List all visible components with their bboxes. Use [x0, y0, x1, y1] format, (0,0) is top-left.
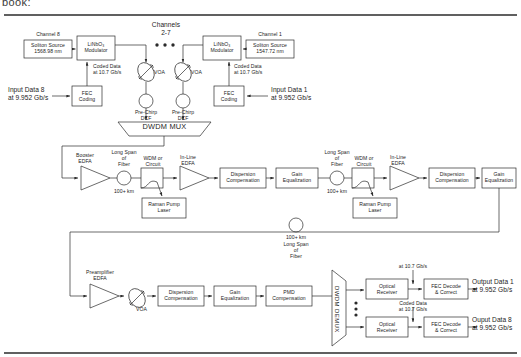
channel8-soliton-source: Soliton Source 1568.98 nm [24, 42, 72, 54]
rx-channel1-output-data: Output Data 1 at 9.952 Gb/s [472, 278, 521, 294]
span2-dispersion-compensation: Dispersion Compensation [429, 171, 475, 183]
channel8-coded-data: Coded Data at 10.7 Gb/s [93, 63, 137, 75]
diagram-canvas: book: [0, 0, 521, 357]
channel8-modulator: LiNbO₃ Modulator [77, 41, 115, 53]
span1-dispersion-compensation: Dispersion Compensation [220, 171, 266, 183]
channel8-fec-coding: FEC Coding [72, 90, 102, 102]
receiver-voa-label: VOA [136, 306, 150, 312]
channel1-coded-data: Coded Data at 10.7 Gb/s [234, 63, 278, 75]
channel1-fec-coding: FEC Coding [214, 90, 244, 102]
channel1-voa-label: VOA [191, 69, 205, 75]
span3-fiber-length: 100+ km [277, 234, 315, 240]
channel1-input-data: Input Data 1 at 9.952 Gb/s [271, 86, 337, 102]
dwdm-mux-label: DWDM MUX [129, 124, 200, 130]
middle-channels-label: Channels 2-7 [140, 21, 192, 37]
span2-gain-equalization: Gain Equalization [482, 171, 516, 183]
span1-fiber-length: 100+ km [105, 188, 143, 194]
rx-channel1-coded-data: at 10.7 Gb/s [388, 263, 438, 269]
channel1-prechirp-dcf: Pre-Chirp DCF [161, 109, 205, 121]
channel1-modulator: LiNbO₃ Modulator [203, 41, 241, 53]
channel8-voa-label: VOA [154, 69, 168, 75]
receiver-preamplifier-edfa: Preamplifier EDFA [77, 269, 123, 281]
span2-fiber-length: 100+ km [318, 188, 356, 194]
channel1-label: Channel 1 [246, 31, 294, 37]
span1-wdm-circuit: WDM or Circuit [138, 155, 168, 167]
span1-inline-edfa: In-Line EDFA [172, 154, 204, 166]
receiver-pmd-compensation: PMD Compensation [266, 289, 312, 301]
channel8-input-data: Input Data 8 at 9.952 Gb/s [8, 86, 70, 102]
rx-channel1-optical-receiver: Optical Receiver [366, 283, 408, 295]
span2-inline-edfa: In-Line EDFA [382, 154, 414, 166]
receiver-dispersion-compensation: Dispersion Compensation [158, 289, 204, 301]
channel8-label: Channel 8 [24, 31, 72, 37]
rx-channel8-fec-decode: FEC Decode & Correct [424, 321, 468, 333]
channel1-soliton-source: Soliton Source 1547.72 nm [246, 42, 294, 54]
dwdm-demux-label: DWDM DEMUX [334, 281, 340, 337]
receiver-gain-equalization: Gain Equalization [214, 289, 256, 301]
span2-raman-pump-laser: Raman Pump Laser [353, 201, 397, 213]
span3-fiber-label: Long Span of Fiber [275, 241, 317, 260]
span1-raman-pump-laser: Raman Pump Laser [142, 201, 186, 213]
span2-wdm-circuit: WDM or Circuit [349, 155, 379, 167]
rx-channel8-optical-receiver: Optical Receiver [366, 321, 408, 333]
span1-gain-equalization: Gain Equalization [276, 171, 318, 183]
span1-booster-edfa: Booster EDFA [68, 152, 102, 164]
rx-channel1-fec-decode: FEC Decode & Correct [424, 283, 468, 295]
rx-channel8-output-data: Ouput Data 8 at 9.952 Gb/s [472, 316, 521, 332]
rx-channel8-coded-data: Coded Data at 10.7 Gb/s [388, 300, 438, 312]
